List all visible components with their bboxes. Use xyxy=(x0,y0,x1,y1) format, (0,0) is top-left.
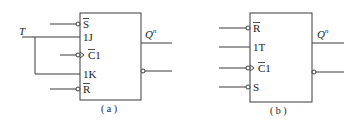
k-label: 1K xyxy=(83,68,97,80)
caption-b: ( b ) xyxy=(270,105,287,117)
j-label: 1J xyxy=(83,31,94,43)
t-input-label: T xyxy=(19,25,26,37)
set-bubble-icon-b xyxy=(246,85,250,89)
set-label-a: S xyxy=(83,18,89,30)
reset-label-a: R xyxy=(83,83,91,95)
reset-bubble-icon-a xyxy=(76,87,80,91)
reset-label-b: R xyxy=(253,22,261,34)
clock-label-b: C1 xyxy=(258,62,271,74)
clock-bubble-icon-b xyxy=(246,66,250,70)
t-label-b: 1T xyxy=(253,41,266,53)
caption-a: ( a ) xyxy=(101,103,117,115)
q-superscript-a: n xyxy=(153,27,157,35)
flip-flop-a: T S 1J C1 1K R Q n ( a ) xyxy=(19,13,172,115)
qbar-bubble-icon-b xyxy=(312,70,316,74)
clock-bubble-icon-a xyxy=(76,53,80,57)
reset-bubble-icon-b xyxy=(246,26,250,30)
flip-flop-diagram: T S 1J C1 1K R Q n ( a ) xyxy=(0,0,355,125)
q-output-label-b: Q xyxy=(317,28,325,40)
qbar-bubble-icon-a xyxy=(141,69,145,73)
q-output-label-a: Q xyxy=(145,28,153,40)
set-bubble-icon-a xyxy=(76,22,80,26)
q-superscript-b: n xyxy=(325,27,329,35)
clock-label-a: C1 xyxy=(88,49,101,61)
set-label-b: S xyxy=(253,81,259,93)
flip-flop-b: R 1T C1 S Q n ( b ) xyxy=(219,13,344,117)
